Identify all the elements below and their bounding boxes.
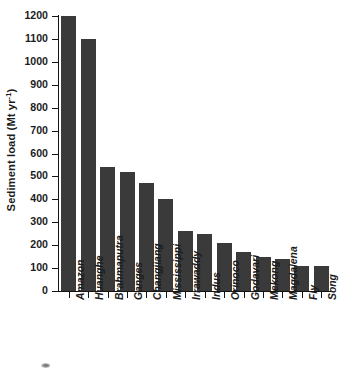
y-axis-tick <box>52 176 58 177</box>
x-axis-tick <box>224 292 225 298</box>
y-axis-tick <box>52 108 58 109</box>
y-axis-title-suffix: ) <box>5 89 17 93</box>
y-axis-tick-label: 900 <box>30 79 48 90</box>
x-axis-category-label: Mississippi <box>171 244 185 300</box>
x-axis-category-label: Amazon <box>74 260 88 300</box>
x-axis-tick <box>263 292 264 298</box>
x-axis-tick <box>185 292 186 298</box>
x-axis-tick <box>146 292 147 298</box>
x-axis-category-label: Song <box>326 274 340 300</box>
y-axis-tick-label: 1100 <box>25 33 48 44</box>
y-axis-tick <box>52 268 58 269</box>
y-axis-tick-label: 700 <box>30 125 48 136</box>
x-axis-tick <box>127 292 128 298</box>
y-axis-tick <box>52 245 58 246</box>
y-axis-tick <box>52 16 58 17</box>
y-axis-line <box>58 15 59 292</box>
x-axis-category-label: Orinoco <box>229 260 243 300</box>
x-axis-tick <box>166 292 167 298</box>
y-axis-tick-label: 0 <box>42 285 48 296</box>
x-axis-tick <box>244 292 245 298</box>
x-axis-category-label: Changjiang <box>151 243 165 300</box>
x-axis-category-label: Huanghe <box>93 256 107 300</box>
y-axis-tick-label: 800 <box>30 102 48 113</box>
y-axis-tick-label: 500 <box>30 170 48 181</box>
y-axis-title-superscript: -1 <box>3 92 12 99</box>
y-axis-tick <box>52 131 58 132</box>
x-axis-tick <box>282 292 283 298</box>
x-axis-category-label: Fly <box>307 285 321 300</box>
y-axis-title: Sediment load (Mt yr-1) <box>0 0 22 300</box>
x-axis-category-label: Ganges <box>132 262 146 300</box>
y-axis-tick-label: 1200 <box>24 10 48 21</box>
y-axis-tick-label: 600 <box>30 148 48 159</box>
x-axis-category-label: Brahmaputra <box>113 235 127 300</box>
x-axis-tick <box>321 292 322 298</box>
y-axis-title-prefix: Sediment load (Mt yr <box>5 99 17 211</box>
x-axis-category-label: Godavari <box>249 255 263 300</box>
bar <box>81 39 96 291</box>
y-axis-title-text: Sediment load (Mt yr-1) <box>5 89 17 212</box>
bar <box>61 16 76 291</box>
x-axis-tick <box>108 292 109 298</box>
y-axis-tick <box>52 222 58 223</box>
x-axis-category-label: Mekong <box>268 261 282 300</box>
x-axis-category-label: Irrawaddy <box>190 251 204 300</box>
scan-smudge <box>41 363 50 368</box>
y-axis-tick-label: 300 <box>30 216 48 227</box>
y-axis-tick <box>52 154 58 155</box>
x-axis-category-label: Indus <box>210 272 224 300</box>
y-axis-tick-label: 100 <box>30 262 48 273</box>
y-axis-tick <box>52 199 58 200</box>
y-axis-tick-label: 400 <box>30 193 48 204</box>
x-axis-tick <box>69 292 70 298</box>
y-axis-tick <box>52 85 58 86</box>
y-axis-tick <box>52 62 58 63</box>
y-axis-tick-label: 200 <box>30 239 48 250</box>
y-axis-tick-label: 1000 <box>24 56 48 67</box>
sediment-load-bar-chart: Sediment load (Mt yr-1) 0100200300400500… <box>0 0 340 389</box>
x-axis-tick <box>302 292 303 298</box>
x-axis-tick <box>88 292 89 298</box>
x-axis-tick <box>205 292 206 298</box>
x-axis-category-label: Magdalena <box>287 246 301 300</box>
y-axis-tick <box>52 39 58 40</box>
y-axis-tick <box>52 291 58 292</box>
